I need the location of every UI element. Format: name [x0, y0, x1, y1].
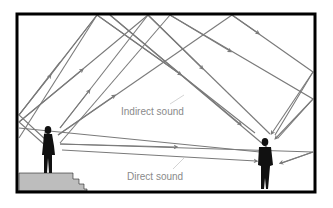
- indirect-sound-label: Indirect sound: [121, 106, 184, 117]
- direct-sound-label: Direct sound: [127, 171, 183, 182]
- indirect-sound-rays: [19, 15, 313, 163]
- speaker-figure: [42, 126, 55, 173]
- listener-figure: [258, 138, 273, 189]
- stairs-platform: [19, 173, 87, 191]
